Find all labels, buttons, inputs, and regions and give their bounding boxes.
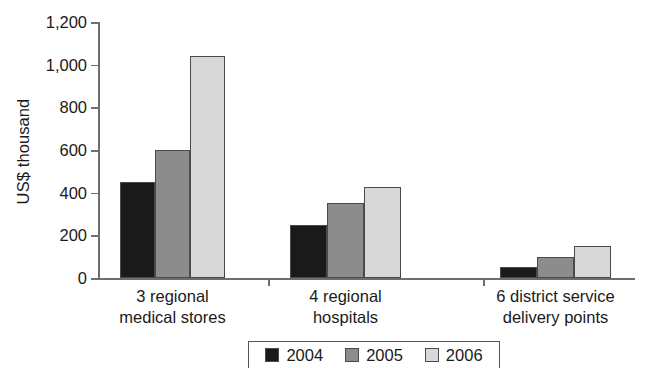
bar-2006-group-3: [574, 246, 611, 278]
category-label-line: 4 regional: [236, 286, 456, 307]
legend-label-2004: 2004: [286, 347, 323, 364]
y-axis-tick-label: 800: [59, 98, 87, 117]
y-axis-tick-mark: [91, 235, 98, 237]
category-label-3: 6 district servicedelivery points: [446, 286, 651, 328]
legend-swatch-2005: [345, 348, 359, 362]
bar-2005-group-3: [537, 257, 574, 278]
chart-legend: 200420052006: [248, 341, 500, 368]
category-label-2: 4 regionalhospitals: [236, 286, 456, 328]
y-axis-tick-label: 200: [59, 226, 87, 245]
y-axis-tick-label: 1,200: [46, 13, 87, 32]
y-axis-tick-mark: [91, 278, 98, 280]
y-axis-tick-label: 600: [59, 141, 87, 160]
category-label-line: 6 district service: [446, 286, 651, 307]
x-axis-tick-mark: [268, 278, 270, 286]
y-axis-line: [98, 22, 100, 278]
x-axis-tick-mark: [483, 278, 485, 286]
y-axis-tick-label: 400: [59, 183, 87, 202]
legend-swatch-2004: [265, 348, 279, 362]
category-label-line: hospitals: [236, 307, 456, 328]
bar-chart: US$ thousand 02004006008001,0001,200 3 r…: [0, 0, 651, 368]
bar-2004-group-2: [290, 225, 327, 278]
bar-2004-group-3: [500, 267, 537, 278]
y-axis-tick-mark: [91, 22, 98, 24]
bar-2006-group-1: [190, 56, 225, 278]
y-axis-tick-label: 1,000: [46, 55, 87, 74]
legend-item-2005[interactable]: 2005: [345, 347, 403, 364]
y-axis-title: US$ thousand: [14, 62, 33, 242]
legend-swatch-2006: [425, 348, 439, 362]
x-axis-line: [98, 278, 635, 280]
category-label-line: delivery points: [446, 307, 651, 328]
y-axis-tick-label: 0: [78, 269, 87, 288]
y-axis-tick-mark: [91, 150, 98, 152]
legend-item-2004[interactable]: 2004: [265, 347, 323, 364]
plot-area: 02004006008001,0001,200 3 regionalmedica…: [98, 22, 635, 278]
bar-2005-group-1: [155, 150, 190, 278]
y-axis-tick-mark: [91, 193, 98, 195]
y-axis-tick-mark: [91, 107, 98, 109]
y-axis-tick-mark: [91, 65, 98, 67]
legend-label-2006: 2006: [446, 347, 483, 364]
bar-2004-group-1: [120, 182, 155, 278]
legend-label-2005: 2005: [366, 347, 403, 364]
legend-item-2006[interactable]: 2006: [425, 347, 483, 364]
bar-2005-group-2: [327, 203, 364, 278]
bar-2006-group-2: [364, 187, 401, 278]
